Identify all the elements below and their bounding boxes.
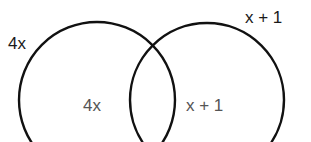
right-circle	[130, 23, 284, 142]
right-region-label: x + 1	[186, 97, 223, 114]
left-region-label: 4x	[83, 97, 101, 114]
left-circle	[19, 22, 175, 142]
left-circle-outer-label: 4x	[8, 35, 26, 52]
right-circle-outer-label: x + 1	[245, 9, 282, 26]
